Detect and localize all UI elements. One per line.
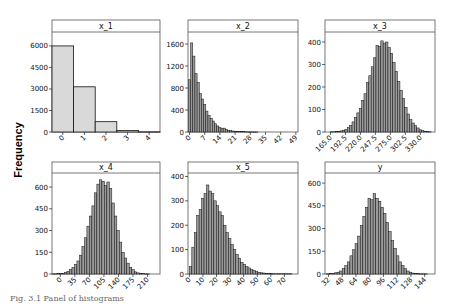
histogram-bar: [204, 194, 206, 274]
x-tick-label: 2: [101, 134, 110, 143]
x-tick-label: 175: [121, 276, 136, 291]
histogram-bar: [52, 46, 74, 132]
histogram-bar: [366, 83, 368, 133]
histogram-bar: [383, 43, 385, 132]
histogram-bar: [338, 131, 340, 132]
histogram-bar: [89, 216, 91, 274]
histogram-bar: [193, 56, 195, 132]
histogram-bar: [199, 209, 201, 274]
y-tick-label: 0: [44, 271, 48, 279]
histogram-bar: [119, 242, 121, 274]
histogram-bar: [69, 270, 71, 274]
y-tick-label: 600: [35, 184, 48, 192]
histogram-bar: [216, 206, 218, 274]
histogram-bar: [342, 130, 344, 132]
histogram-bar: [197, 215, 199, 274]
histogram-bar: [376, 198, 379, 274]
x-tick-label: 80: [361, 276, 373, 288]
histogram-bar: [340, 131, 342, 132]
histogram-bar: [373, 194, 376, 274]
histogram-bar: [62, 273, 64, 274]
histogram-bar: [228, 239, 230, 274]
figure-caption: Fig. 3.1 Panel of histograms: [10, 294, 124, 303]
histogram-bar: [396, 256, 399, 274]
y-tick-label: 150: [35, 249, 48, 257]
histogram-bar: [87, 226, 89, 274]
histogram-bar: [404, 269, 407, 274]
panel-title: x_4: [99, 163, 113, 172]
x-tick-label: 48: [334, 276, 346, 288]
histogram-bar: [109, 188, 111, 274]
histogram-bar: [407, 114, 409, 132]
panel-title: x_5: [236, 163, 250, 172]
histogram-bar: [248, 268, 250, 274]
x-tick-label: 1: [79, 134, 88, 143]
x-tick-label: 210: [136, 276, 151, 291]
histogram-bar: [365, 207, 368, 274]
histogram-bar: [223, 128, 225, 132]
histogram-bar: [362, 101, 364, 133]
x-tick-label: 0: [55, 276, 64, 285]
x-tick-label: 0: [184, 276, 193, 285]
histogram-bar: [117, 130, 139, 132]
histogram-bar: [132, 270, 134, 274]
histogram-bar: [225, 130, 227, 132]
histogram-bar: [419, 130, 421, 132]
histogram-bar: [210, 118, 212, 132]
y-tick-label: 400: [171, 173, 184, 181]
y-tick-label: 300: [171, 197, 184, 205]
histogram-bar: [383, 213, 386, 274]
histogram-bar: [376, 45, 378, 132]
x-tick-label: 70: [81, 276, 93, 288]
histogram-bar: [402, 98, 404, 132]
histogram-bar: [224, 225, 226, 274]
histogram-bar: [231, 245, 233, 274]
histogram-bar: [95, 122, 117, 132]
y-tick-label: 800: [171, 85, 184, 93]
histogram-bar: [381, 207, 384, 274]
panel-title: x_1: [99, 22, 113, 31]
x-tick-label: 7: [199, 134, 208, 143]
histogram-bar: [253, 271, 255, 274]
histogram-bar: [199, 94, 201, 133]
histogram-bar: [410, 120, 412, 132]
histogram-bar: [191, 43, 193, 132]
panel-title: x_3: [373, 22, 387, 31]
histogram-bar: [236, 131, 238, 132]
histogram-bar: [92, 206, 94, 274]
y-axis-label: Frequency: [12, 121, 24, 178]
x-tick-label: 140: [107, 276, 122, 291]
histogram-bar: [405, 107, 407, 132]
y-tick-label: 0: [317, 129, 321, 137]
histogram-bar: [238, 258, 240, 274]
histogram-bar: [371, 200, 374, 274]
x-tick-label: 30: [222, 276, 234, 288]
panels-group: x_10150030004500600001234x_2040080012001…: [30, 20, 435, 291]
histogram-bar: [260, 273, 262, 274]
histogram-bar: [390, 53, 392, 132]
histogram-bar: [127, 263, 129, 274]
y-tick-label: 600: [308, 180, 321, 188]
x-tick-label: 330.0: [404, 134, 424, 154]
histogram-bar: [117, 231, 119, 274]
histogram-bar: [386, 222, 389, 274]
histogram-bar: [202, 198, 204, 274]
y-tick-label: 200: [171, 222, 184, 230]
histogram-bar: [212, 121, 214, 132]
histogram-bar: [409, 272, 412, 274]
histogram-bar: [265, 273, 267, 274]
histogram-bar: [236, 254, 238, 274]
histogram-bar: [233, 250, 235, 274]
histogram-bar: [350, 125, 352, 132]
histogram-bar: [209, 191, 211, 274]
histogram-bar: [250, 270, 252, 274]
histogram-bar: [353, 250, 356, 274]
histogram-bar: [360, 226, 363, 274]
x-tick-label: 112: [385, 276, 400, 291]
histogram-bar: [350, 256, 353, 274]
histogram-bar: [104, 186, 106, 274]
histogram-x-5: x_50100200300400010203040506070: [171, 162, 298, 288]
y-tick-label: 150: [308, 248, 321, 256]
histogram-bar: [347, 262, 350, 274]
x-tick-label: 28: [242, 134, 254, 146]
